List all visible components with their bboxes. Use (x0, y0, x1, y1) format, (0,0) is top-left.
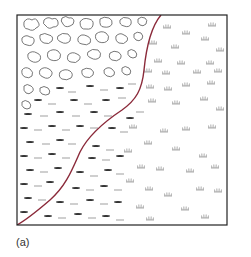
grassland-region (124, 23, 224, 221)
boundary-curve (17, 15, 161, 225)
diagram-content (17, 15, 224, 225)
rock-debris-region (22, 17, 147, 110)
diagram-frame (17, 15, 227, 225)
panel-label: (a) (16, 236, 29, 248)
landscape-diagram (0, 0, 251, 257)
